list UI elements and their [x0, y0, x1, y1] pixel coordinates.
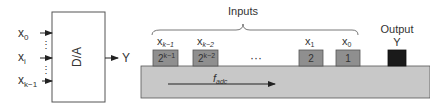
svg-text:1: 1 [345, 53, 351, 64]
svg-text:2: 2 [308, 53, 314, 64]
diagram-canvas: D/A x0 ⋮ xi ⋮ xk−1 Y Inputs Output Y xk−… [0, 0, 430, 107]
block-var-label: x1 [305, 35, 315, 48]
svg-text:xk−1: xk−1 [18, 73, 38, 89]
svg-text:Y: Y [122, 51, 130, 65]
svg-text:xi: xi [18, 50, 26, 66]
output-y: Y [105, 51, 130, 65]
block-xk-1: 2k−1 [153, 50, 178, 66]
ellipsis-vertical: ⋮ [41, 64, 51, 75]
block-var-label: xk−1 [157, 35, 174, 48]
inputs-label: Inputs [228, 5, 258, 17]
block-var-label: xk−2 [197, 35, 214, 48]
ellipsis-horizontal: ··· [250, 51, 262, 65]
conveyor-diagram: Inputs Output Y xk−1 xk−2 x1 x0 2k−1 2k−… [141, 5, 430, 98]
inputs-brace [152, 24, 358, 35]
ellipsis-vertical: ⋮ [41, 39, 51, 50]
output-symbol: Y [393, 36, 401, 48]
block-var-label: x0 [342, 35, 352, 48]
block-x0: 1 [336, 50, 360, 66]
block-xk-2: 2k−2 [193, 50, 218, 66]
da-label: D/A [70, 47, 84, 67]
output-label: Output [380, 23, 413, 35]
input-xk-1: xk−1 [18, 73, 52, 89]
belt [141, 66, 430, 98]
output-block [388, 50, 406, 66]
block-x1: 2 [299, 50, 323, 66]
svg-text:x0: x0 [18, 26, 29, 42]
da-converter-block: D/A [52, 12, 105, 102]
